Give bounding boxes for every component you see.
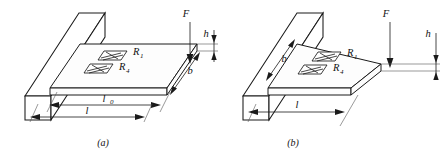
dimension-l-ext-right-b [340, 95, 358, 126]
dimension-l0-label-a: l [103, 93, 106, 104]
dimension-b-label-b: b [281, 53, 286, 64]
dimension-h-label-a: h [203, 28, 208, 39]
panel-b: R 1 R 4 F h [243, 8, 440, 149]
dimension-l0-arrow-right-a [151, 102, 161, 108]
dimension-b-label-a: b [187, 65, 192, 76]
force-arrow-head-b [387, 58, 394, 68]
dimension-h-label-b: h [425, 28, 430, 39]
dimension-l-label-a: l [86, 105, 89, 116]
strain-gauge-r4-label-b: R [332, 62, 340, 73]
strain-gauge-r1-subscript-a: 1 [140, 52, 144, 60]
dimension-l-ext-right-a [144, 104, 152, 122]
dimension-l0-subscript-a: 0 [110, 98, 114, 106]
dimension-h-arrow-top-a [211, 35, 216, 43]
force-arrow-b [387, 22, 394, 68]
panel-a: R 1 R 4 F h [25, 8, 218, 149]
dimension-h-arrow-bottom-b [433, 72, 438, 80]
beam-front-thickness-face-a [50, 88, 167, 95]
force-label-a: F [182, 8, 190, 19]
dimension-l-arrow-right-b [335, 109, 345, 115]
figure-root: R 1 R 4 F h [0, 0, 446, 161]
strain-gauge-r1-subscript-b: 1 [354, 53, 358, 61]
cantilever-beam-figure: R 1 R 4 F h [0, 0, 446, 161]
dimension-h-arrow-bottom-a [211, 52, 216, 60]
strain-gauge-r4-label-a: R [118, 61, 126, 72]
strain-gauge-r1-label-a: R [132, 46, 140, 57]
dimension-l-arrow-right-a [135, 114, 145, 120]
strain-gauge-r1-label-b: R [346, 47, 354, 58]
strain-gauge-r4-subscript-a: 4 [126, 67, 130, 75]
panel-caption-b: (b) [287, 137, 299, 149]
dimension-h-arrow-top-b [433, 55, 438, 63]
beam-front-thickness-face-b [268, 88, 351, 95]
strain-gauge-r4-subscript-b: 4 [340, 68, 344, 76]
panel-caption-a: (a) [97, 137, 109, 149]
force-label-b: F [382, 8, 390, 19]
support-wall-front-face-b [243, 96, 269, 120]
dimension-l-label-b: l [296, 99, 299, 110]
